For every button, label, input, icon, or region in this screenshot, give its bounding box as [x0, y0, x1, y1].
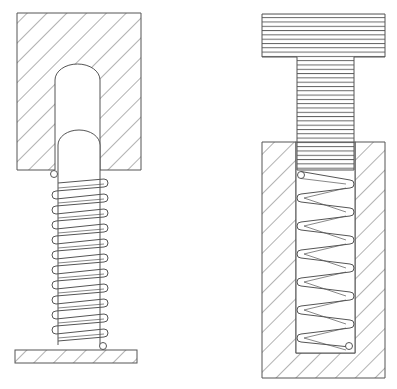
base-plate — [15, 350, 137, 363]
right-figure — [262, 14, 385, 378]
plunger — [58, 130, 100, 345]
diagram-canvas — [0, 0, 397, 389]
spring-end-bottom — [100, 343, 107, 350]
left-figure — [15, 13, 141, 363]
spring-end-top — [51, 171, 58, 178]
